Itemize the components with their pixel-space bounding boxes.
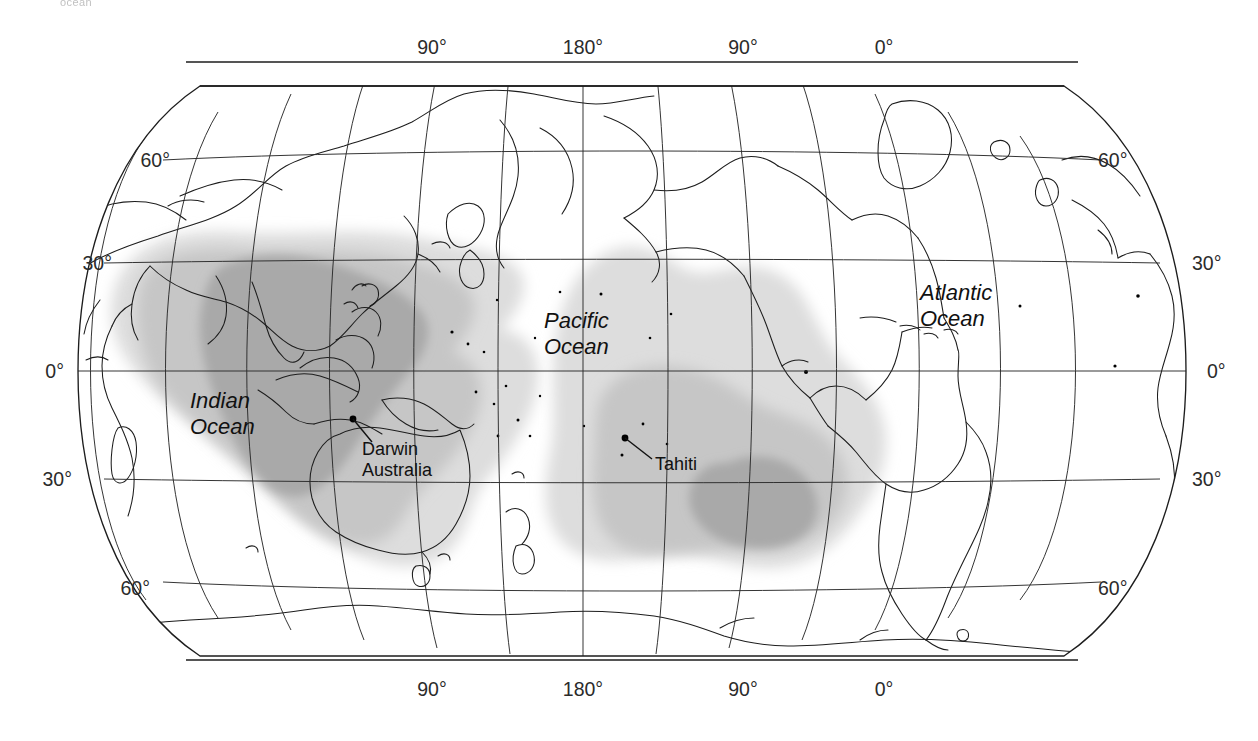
lon-label-bottom-1: 180° xyxy=(563,678,603,700)
darwin-label-line2: Australia xyxy=(362,460,433,480)
lat-label-right-60n: 60° xyxy=(1098,149,1128,171)
atlantic-ocean-label-line1: Atlantic xyxy=(918,280,992,305)
pacific-ocean-label-line1: Pacific xyxy=(544,308,609,333)
lon-label-top-3: 0° xyxy=(875,36,894,58)
lat-label-left-30s: 30° xyxy=(43,468,73,490)
lon-label-top-0: 90° xyxy=(417,36,447,58)
lat-label-right-60s: 60° xyxy=(1098,577,1128,599)
lat-label-left-60s: 60° xyxy=(121,577,151,599)
figure-root: ocean xyxy=(0,0,1258,741)
lon-label-bottom-3: 0° xyxy=(875,678,894,700)
lat-label-left-0: 0° xyxy=(45,360,64,382)
lon-label-bottom-0: 90° xyxy=(417,678,447,700)
world-map: Indian Ocean Pacific Ocean Atlantic Ocea… xyxy=(0,0,1258,741)
atlantic-ocean-label-line2: Ocean xyxy=(920,306,985,331)
pacific-ocean-label-line2: Ocean xyxy=(544,334,609,359)
lat-label-right-0: 0° xyxy=(1207,360,1226,382)
longitude-labels-bottom: 90° 180° 90° 0° xyxy=(417,678,893,700)
meridian-30w xyxy=(948,112,1001,618)
indian-ocean-label-line1: Indian xyxy=(190,388,250,413)
lat-label-right-30n: 30° xyxy=(1192,252,1222,274)
tahiti-label: Tahiti xyxy=(655,454,697,474)
lat-label-left-60n: 60° xyxy=(141,149,171,171)
longitude-labels-top: 90° 180° 90° 0° xyxy=(417,36,893,58)
darwin-label-line1: Darwin xyxy=(362,439,418,459)
lon-label-top-1: 180° xyxy=(563,36,603,58)
lon-label-bottom-2: 90° xyxy=(728,678,758,700)
parallel-60s xyxy=(163,582,1101,591)
lat-label-left-30n: 30° xyxy=(83,252,113,274)
latitude-labels-right: 60° 30° 0° 30° 60° xyxy=(1098,149,1226,599)
lon-label-top-2: 90° xyxy=(728,36,758,58)
lat-label-right-30s: 30° xyxy=(1192,468,1222,490)
indian-ocean-label-line2: Ocean xyxy=(190,414,255,439)
